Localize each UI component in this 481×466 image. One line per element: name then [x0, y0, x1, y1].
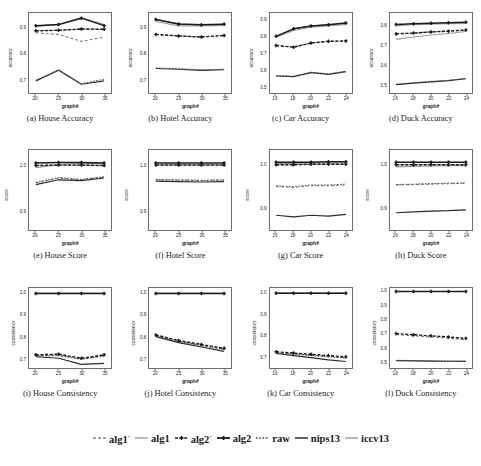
x-tick-label: 22: [446, 233, 451, 238]
y-tick-label: 0.9: [260, 311, 266, 316]
y-axis-ticks: 0.70.80.91.0: [11, 287, 27, 369]
subplot-f: score0.91.020253035graph#(f) Hotel Score: [120, 137, 240, 274]
legend-label: alg1: [151, 433, 170, 444]
y-tick-label: 0.9: [260, 16, 266, 21]
y-axis-ticks: 0.91.0: [11, 149, 27, 231]
legend-item-alg2: alg2: [216, 433, 252, 444]
y-tick-label: 0.8: [20, 51, 26, 56]
subplot-caption: (e) House Score: [33, 251, 87, 260]
x-tick-label: 25: [56, 233, 61, 238]
legend-item-raw: raw: [255, 433, 290, 444]
legend-line-swatch: [174, 433, 189, 443]
y-tick-label: 1.0: [260, 162, 266, 167]
plot-area-l: consistency0.50.60.70.80.91.01618202224g…: [363, 279, 479, 387]
x-tick-label: 22: [446, 371, 451, 376]
subplot-caption: (a) House Accuracy: [27, 114, 94, 123]
legend-label: alg1-: [109, 432, 130, 445]
y-tick-label: 0.9: [140, 312, 146, 317]
axes-c: [269, 12, 353, 94]
y-axis-ticks: 0.91.0: [372, 149, 388, 231]
subplot-caption: (b) Hotel Accuracy: [148, 114, 212, 123]
subplot-l: consistency0.50.60.70.80.91.01618202224g…: [361, 275, 481, 412]
y-tick-label: 0.7: [260, 51, 266, 56]
x-tick-label: 20: [428, 96, 433, 101]
y-tick-label: 0.8: [140, 51, 146, 56]
subplot-e: score0.91.020253035graph#(e) House Score: [0, 137, 120, 274]
subplot-caption: (g) Car Score: [278, 251, 323, 260]
plot-area-d: accuracy0.50.60.70.81618202224graph#: [363, 4, 479, 112]
x-axis-ticks: 1618202224: [389, 370, 473, 378]
legend-label: nips13: [311, 433, 340, 444]
x-axis-ticks: 1618202224: [269, 95, 353, 103]
y-tick-label: 1.0: [380, 288, 386, 293]
plot-area-a: accuracy0.70.80.920253035graph#: [2, 4, 118, 112]
y-axis-ticks: 0.50.60.70.8: [372, 12, 388, 94]
x-tick-label: 18: [410, 371, 415, 376]
x-tick-label: 30: [200, 371, 205, 376]
x-tick-label: 20: [33, 96, 38, 101]
y-axis-ticks: 0.70.80.91.0: [252, 287, 268, 369]
subplot-caption: (f) Hotel Score: [155, 251, 205, 260]
subplot-caption: (k) Car Consistency: [267, 389, 334, 398]
x-tick-label: 18: [410, 96, 415, 101]
x-axis-ticks: 1618202224: [389, 95, 473, 103]
y-tick-label: 0.9: [380, 302, 386, 307]
y-tick-label: 0.6: [380, 345, 386, 350]
y-tick-label: 0.8: [380, 317, 386, 322]
x-tick-label: 18: [410, 233, 415, 238]
x-axis-label: graph#: [148, 103, 232, 109]
x-axis-ticks: 20253035: [148, 232, 232, 240]
y-axis-ticks: 0.50.60.70.80.9: [252, 12, 268, 94]
y-tick-label: 0.9: [20, 312, 26, 317]
legend-item-iccv13: iccv13: [344, 433, 389, 444]
y-axis-label: score: [125, 189, 130, 201]
y-tick-label: 1.0: [260, 290, 266, 295]
subplot-i: consistency0.70.80.91.020253035graph#(i)…: [0, 275, 120, 412]
legend-line-swatch: [216, 433, 231, 443]
figure-legend: alg1-alg1alg2-alg2rawnips13iccv13: [0, 424, 481, 452]
y-tick-label: 0.5: [260, 85, 266, 90]
y-tick-label: 0.9: [260, 205, 266, 210]
x-tick-label: 20: [308, 233, 313, 238]
x-tick-label: 22: [326, 96, 331, 101]
y-tick-label: 0.7: [380, 331, 386, 336]
x-tick-label: 24: [464, 233, 469, 238]
x-tick-label: 20: [153, 96, 158, 101]
y-axis-label: score: [365, 189, 370, 201]
x-tick-label: 22: [326, 233, 331, 238]
subplot-caption: (l) Duck Consistency: [385, 389, 456, 398]
subplot-d: accuracy0.50.60.70.81618202224graph#(d) …: [361, 0, 481, 137]
axes-d: [389, 12, 473, 94]
y-tick-label: 0.8: [380, 23, 386, 28]
x-tick-label: 35: [223, 96, 228, 101]
x-tick-label: 24: [344, 233, 349, 238]
x-tick-label: 25: [176, 371, 181, 376]
subplot-g: score0.91.01618202224graph#(g) Car Score: [241, 137, 361, 274]
y-tick-label: 0.6: [260, 68, 266, 73]
y-tick-label: 0.5: [380, 360, 386, 365]
x-axis-label: graph#: [269, 240, 353, 246]
x-axis-label: graph#: [148, 378, 232, 384]
x-tick-label: 18: [290, 96, 295, 101]
x-tick-label: 25: [56, 96, 61, 101]
x-tick-label: 25: [56, 371, 61, 376]
axes-a: [28, 12, 112, 94]
y-tick-label: 0.9: [140, 208, 146, 213]
plot-area-e: score0.91.020253035graph#: [2, 141, 118, 249]
x-tick-label: 16: [272, 96, 277, 101]
x-tick-label: 35: [103, 233, 108, 238]
x-tick-label: 20: [428, 233, 433, 238]
y-tick-label: 0.8: [260, 33, 266, 38]
y-axis-ticks: 0.50.60.70.80.91.0: [372, 287, 388, 369]
x-tick-label: 30: [200, 233, 205, 238]
x-tick-label: 20: [308, 96, 313, 101]
y-tick-label: 0.8: [140, 334, 146, 339]
y-tick-label: 0.7: [20, 77, 26, 82]
legend-label: alg2: [233, 433, 252, 444]
legend-item-alg1-minus: alg1-: [92, 432, 130, 445]
subplot-k: consistency0.70.80.91.01618202224graph#(…: [241, 275, 361, 412]
x-tick-label: 16: [393, 96, 398, 101]
x-tick-label: 20: [33, 233, 38, 238]
plot-area-f: score0.91.020253035graph#: [122, 141, 238, 249]
x-tick-label: 18: [290, 233, 295, 238]
